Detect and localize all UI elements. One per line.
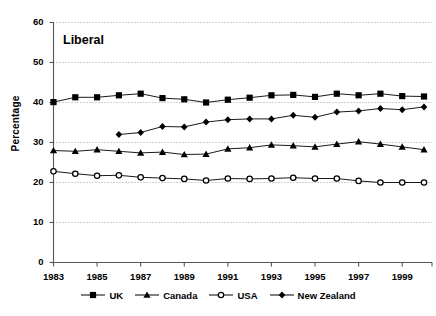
data-point-marker bbox=[421, 103, 428, 110]
filled-triangle-icon bbox=[134, 289, 160, 301]
data-point-marker bbox=[334, 91, 340, 97]
y-tick-label: 0 bbox=[20, 256, 44, 267]
data-point-marker bbox=[290, 112, 297, 119]
data-point-marker bbox=[138, 175, 143, 180]
data-point-marker bbox=[334, 109, 341, 116]
data-series bbox=[50, 91, 428, 186]
data-point-marker bbox=[290, 92, 296, 98]
data-point-marker bbox=[278, 292, 285, 299]
x-tick-label: 1993 bbox=[250, 271, 292, 282]
series-line bbox=[54, 142, 425, 155]
y-tick-label: 10 bbox=[20, 216, 44, 227]
x-tick-label: 1989 bbox=[163, 271, 205, 282]
y-tick-label: 40 bbox=[20, 96, 44, 107]
x-tick-label: 1991 bbox=[207, 271, 249, 282]
series-line bbox=[54, 94, 425, 103]
data-point-marker bbox=[247, 95, 253, 101]
series-canada bbox=[50, 138, 428, 157]
data-point-marker bbox=[73, 171, 78, 176]
legend-item-usa[interactable]: USA bbox=[208, 289, 257, 301]
data-point-marker bbox=[355, 107, 362, 114]
data-point-marker bbox=[399, 93, 405, 99]
data-point-marker bbox=[181, 123, 188, 130]
data-point-marker bbox=[377, 105, 384, 112]
data-point-marker bbox=[377, 91, 383, 97]
data-point-marker bbox=[225, 176, 230, 181]
series-new-zealand bbox=[116, 103, 428, 138]
data-point-marker bbox=[51, 169, 56, 174]
open-circle-icon bbox=[208, 289, 234, 301]
data-point-marker bbox=[312, 114, 319, 121]
data-point-marker bbox=[50, 99, 56, 105]
data-point-marker bbox=[355, 138, 362, 144]
data-point-marker bbox=[90, 292, 96, 298]
data-point-marker bbox=[159, 95, 165, 101]
data-point-marker bbox=[268, 92, 274, 98]
data-point-marker bbox=[225, 97, 231, 103]
data-point-marker bbox=[203, 119, 210, 126]
legend-label: Canada bbox=[163, 290, 197, 301]
series-line bbox=[54, 171, 425, 182]
x-tick-label: 1999 bbox=[381, 271, 423, 282]
data-point-marker bbox=[137, 129, 144, 136]
data-point-marker bbox=[246, 115, 253, 122]
data-point-marker bbox=[160, 175, 165, 180]
x-tick-label: 1997 bbox=[338, 271, 380, 282]
legend-label: USA bbox=[237, 290, 257, 301]
legend-label: New Zealand bbox=[298, 290, 356, 301]
series-uk bbox=[50, 91, 427, 106]
y-tick-label: 50 bbox=[20, 56, 44, 67]
data-point-marker bbox=[182, 176, 187, 181]
data-point-marker bbox=[399, 106, 406, 113]
x-tick-label: 1987 bbox=[120, 271, 162, 282]
data-point-marker bbox=[334, 176, 339, 181]
data-point-marker bbox=[203, 178, 208, 183]
data-point-marker bbox=[356, 178, 361, 183]
y-tick-label: 30 bbox=[20, 136, 44, 147]
plot-title: Liberal bbox=[63, 33, 104, 47]
data-point-marker bbox=[116, 131, 123, 138]
data-point-marker bbox=[138, 91, 144, 97]
data-point-marker bbox=[268, 141, 275, 147]
data-point-marker bbox=[356, 92, 362, 98]
gridlines bbox=[54, 23, 433, 263]
chart-container: Liberal Percentage 0102030405060 1983198… bbox=[0, 0, 436, 316]
data-point-marker bbox=[50, 147, 57, 153]
data-point-marker bbox=[312, 176, 317, 181]
data-point-marker bbox=[203, 99, 209, 105]
data-point-marker bbox=[94, 173, 99, 178]
filled-square-icon bbox=[80, 289, 106, 301]
data-point-marker bbox=[247, 176, 252, 181]
filled-diamond-icon bbox=[269, 289, 295, 301]
data-point-marker bbox=[312, 94, 318, 100]
x-tick-label: 1985 bbox=[76, 271, 118, 282]
data-point-marker bbox=[159, 149, 166, 155]
data-point-marker bbox=[94, 94, 100, 100]
data-point-marker bbox=[421, 180, 426, 185]
data-point-marker bbox=[181, 96, 187, 102]
chart-plot-area bbox=[0, 0, 436, 316]
data-point-marker bbox=[72, 94, 78, 100]
y-tick-label: 60 bbox=[20, 16, 44, 27]
x-tick-label: 1995 bbox=[294, 271, 336, 282]
chart-legend: UKCanadaUSANew Zealand bbox=[0, 289, 436, 301]
data-point-marker bbox=[269, 176, 274, 181]
legend-item-new-zealand[interactable]: New Zealand bbox=[269, 289, 356, 301]
legend-item-canada[interactable]: Canada bbox=[134, 289, 197, 301]
series-usa bbox=[51, 169, 427, 186]
axes bbox=[50, 23, 433, 267]
legend-label: UK bbox=[109, 290, 123, 301]
data-point-marker bbox=[93, 146, 100, 152]
data-point-marker bbox=[268, 115, 275, 122]
data-point-marker bbox=[225, 116, 232, 123]
data-point-marker bbox=[219, 292, 224, 297]
data-point-marker bbox=[378, 180, 383, 185]
data-point-marker bbox=[421, 93, 427, 99]
data-point-marker bbox=[400, 180, 405, 185]
legend-item-uk[interactable]: UK bbox=[80, 289, 123, 301]
data-point-marker bbox=[159, 123, 166, 130]
data-point-marker bbox=[116, 173, 121, 178]
data-point-marker bbox=[116, 92, 122, 98]
y-tick-label: 20 bbox=[20, 176, 44, 187]
x-tick-label: 1983 bbox=[33, 271, 75, 282]
